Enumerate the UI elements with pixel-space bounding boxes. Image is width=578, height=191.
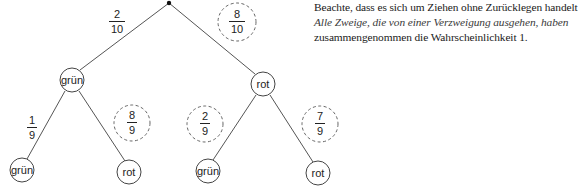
branch-gruen-rot [79,91,125,161]
node-l1-gruen: grün [60,68,84,92]
hint-line-3: zusammengenommen die Wahrscheinlichkeit … [314,30,578,45]
branch-root-rot [169,3,255,74]
node-label: rot [257,78,270,90]
fraction-numerator: 2 [114,8,120,20]
branch-rot-gruen [213,95,256,160]
fraction-numerator: 2 [202,110,208,122]
hint-line-1: Beachte, dass es sich um Ziehen ohne Zur… [314,0,578,15]
fraction-numerator: 1 [29,114,35,126]
node-label: grün [61,74,83,86]
node-label: rot [312,167,325,179]
fraction-numerator: 8 [234,8,240,20]
node-label: grün [197,165,219,177]
branch-root-gruen [80,3,169,70]
fraction-denominator: 9 [317,125,323,137]
prob-gruen-gruen: 1 9 [27,114,37,141]
fraction-denominator: 9 [202,125,208,137]
node-l2-rot-rot: rot [306,161,330,185]
node-label: grün [11,164,33,176]
branch-rot-rot [270,95,313,162]
root-node [167,1,171,5]
fraction-numerator: 8 [129,109,135,121]
hint-line-2: Alle Zweige, die von einer Verzweigung a… [314,15,578,30]
node-l2-rot-gruen: grün [196,159,220,183]
prob-rot-rot: 7 9 [302,106,338,142]
node-l2-gruen-rot: rot [117,160,141,184]
node-label: rot [123,166,136,178]
fraction-denominator: 9 [29,129,35,141]
prob-root-gruen: 2 10 [109,8,125,35]
prob-gruen-rot: 8 9 [114,105,150,141]
fraction-denominator: 10 [231,23,243,35]
fraction-numerator: 7 [317,110,323,122]
node-l1-rot: rot [251,72,275,96]
fraction-denominator: 9 [129,124,135,136]
fraction-denominator: 10 [111,23,123,35]
prob-rot-gruen: 2 9 [187,106,223,142]
prob-root-rot: 8 10 [218,3,256,41]
hint-text: Beachte, dass es sich um Ziehen ohne Zur… [314,0,578,45]
node-l2-gruen-gruen: grün [10,158,34,182]
